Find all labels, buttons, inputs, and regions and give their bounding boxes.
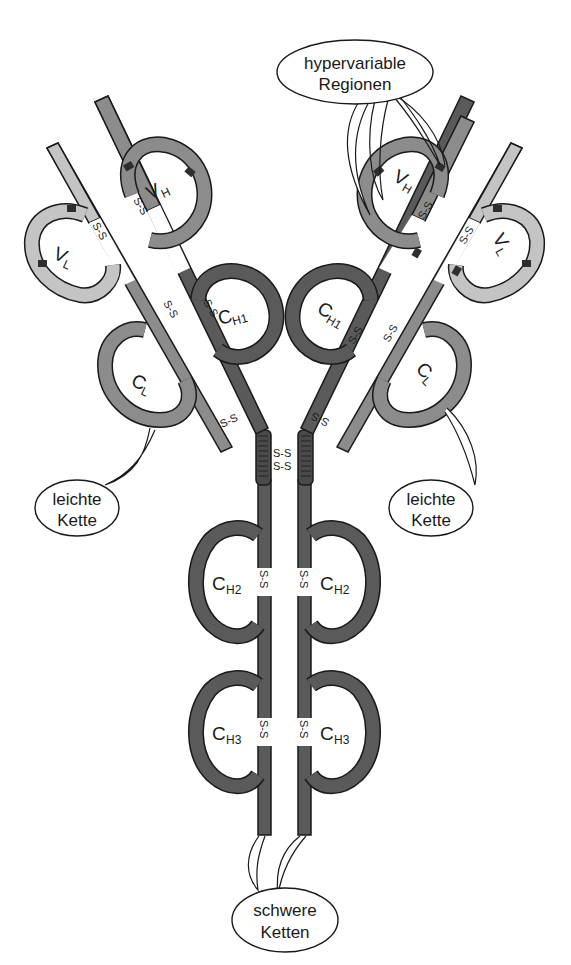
callout-light-chain-right-line2: Kette	[411, 511, 451, 530]
ch1-right-label: CH1	[313, 297, 350, 332]
ch3-right-label: CH3	[320, 723, 350, 747]
callout-heavy-chains-line2: Ketten	[260, 923, 309, 942]
svg-text:H1: H1	[231, 311, 250, 329]
vl-left-label: VL	[49, 243, 77, 273]
svg-text:C: C	[212, 573, 226, 594]
interchain-left-disulfide: S-S	[218, 411, 240, 430]
fab-right: S-S S-S S-S S-S S-S VH VL CH1 CL	[293, 96, 538, 452]
svg-text:C: C	[320, 573, 334, 594]
cl-left-label: CL	[127, 370, 155, 400]
svg-text:C: C	[212, 723, 226, 744]
hinge-left	[256, 430, 271, 485]
ch3-left-disulfide: S-S	[258, 720, 270, 738]
callout-heavy-chains: schwere Ketten	[232, 836, 338, 952]
svg-text:H3: H3	[334, 733, 350, 747]
hinge-right	[298, 430, 313, 485]
callout-hypervariable-line1: hypervariable	[304, 54, 406, 73]
cl-right-label: CL	[410, 358, 441, 389]
cl-left-disulfide: S-S	[161, 298, 181, 320]
svg-text:H2: H2	[226, 583, 242, 597]
antibody-diagram: S-S S-S S-S S-S S-S S-S CH2 CH2 CH3 CH3	[0, 0, 571, 965]
fc-region: S-S S-S S-S S-S S-S S-S CH2 CH2 CH3 CH3	[196, 430, 373, 835]
callout-heavy-chains-line1: schwere	[253, 901, 316, 920]
ch3-left-label: CH3	[212, 723, 242, 747]
hinge-disulfide-1: S-S	[273, 447, 291, 459]
ch2-left-label: CH2	[212, 573, 242, 597]
ch1-left-label: CH1	[216, 301, 250, 332]
svg-text:C: C	[320, 723, 334, 744]
svg-text:H3: H3	[226, 733, 242, 747]
callout-hypervariable-line2: Regionen	[319, 75, 392, 94]
ch2-right-label: CH2	[320, 573, 350, 597]
ch2-left-disulfide: S-S	[258, 570, 270, 588]
fab-left: S-S S-S S-S S-S S-S VH VL CH1 CL	[32, 96, 277, 452]
callout-light-chain-left-line2: Kette	[57, 511, 97, 530]
ch3-right-disulfide: S-S	[298, 720, 310, 738]
callout-light-chain-left: leichte Kette	[35, 428, 155, 536]
svg-text:H2: H2	[334, 583, 350, 597]
vl-right-label: VL	[486, 230, 517, 259]
callout-light-chain-left-line1: leichte	[52, 490, 101, 509]
callout-light-chain-right-line1: leichte	[406, 490, 455, 509]
hinge-disulfide-2: S-S	[273, 460, 291, 472]
ch2-right-disulfide: S-S	[298, 570, 310, 588]
